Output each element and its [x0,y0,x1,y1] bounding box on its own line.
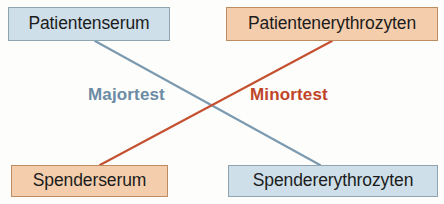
node-spenderserum-label: Spenderserum [33,172,147,191]
node-patientenserum: Patientenserum [8,7,170,41]
node-spendererythrozyten: Spendererythrozyten [228,165,438,197]
majortest-label: Majortest [88,86,165,103]
node-patientenerythrozyten: Patientenerythrozyten [226,7,438,41]
minortest-label: Minortest [250,86,328,103]
node-patientenerythrozyten-label: Patientenerythrozyten [248,15,416,34]
crossmatch-diagram: Patientenserum Patientenerythrozyten Spe… [0,0,444,204]
node-spenderserum: Spenderserum [11,165,168,197]
node-spendererythrozyten-label: Spendererythrozyten [253,172,414,191]
node-patientenserum-label: Patientenserum [28,15,149,34]
